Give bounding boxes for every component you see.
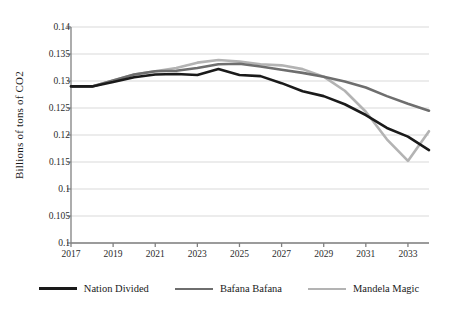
legend-item[interactable]: Mandela Magic bbox=[308, 283, 419, 294]
x-axis-tick-label: 2025 bbox=[230, 249, 249, 259]
x-axis-tick-label: 2033 bbox=[398, 249, 417, 259]
y-axis-tick-label: 0.12 bbox=[24, 130, 70, 140]
y-axis-tick-labels: 0.140.1350.130.1250.120.1150.10.1050.1 bbox=[24, 0, 70, 314]
legend-line-swatch bbox=[308, 288, 346, 290]
legend-item[interactable]: Nation Divided bbox=[39, 283, 149, 294]
series-line-bafana-bafana bbox=[71, 64, 429, 111]
x-axis-tick-label: 2023 bbox=[188, 249, 207, 259]
x-axis-tick-label: 2027 bbox=[272, 249, 291, 259]
y-axis-tick-label: 0.125 bbox=[24, 103, 70, 113]
y-axis-tick-label: 0.135 bbox=[24, 49, 70, 59]
legend-item[interactable]: Bafana Bafana bbox=[175, 283, 282, 294]
x-axis-tick-label: 2019 bbox=[104, 249, 123, 259]
y-axis-tick-label: 0.1 bbox=[24, 184, 70, 194]
y-axis-tick-label: 0.13 bbox=[24, 76, 70, 86]
legend-line-swatch bbox=[175, 288, 213, 290]
y-axis-tick-label: 0.115 bbox=[24, 157, 70, 167]
x-axis-tick-label: 2029 bbox=[314, 249, 333, 259]
legend-item-label: Bafana Bafana bbox=[220, 283, 282, 294]
legend-item-label: Mandela Magic bbox=[353, 283, 419, 294]
x-axis-tick-label: 2021 bbox=[146, 249, 165, 259]
legend-line-swatch bbox=[39, 287, 77, 290]
y-axis-tick-label: 0.14 bbox=[24, 22, 70, 32]
x-axis-tick-label: 2017 bbox=[62, 249, 81, 259]
y-axis-tick-label: 0.105 bbox=[24, 211, 70, 221]
legend-item-label: Nation Divided bbox=[84, 283, 149, 294]
line-chart: Billions of tons of CO2 0.140.1350.130.1… bbox=[0, 0, 458, 314]
x-axis-tick-label: 2031 bbox=[356, 249, 375, 259]
y-axis-tick-label: 0.1 bbox=[24, 238, 70, 248]
chart-legend: Nation DividedBafana BafanaMandela Magic bbox=[0, 283, 458, 294]
